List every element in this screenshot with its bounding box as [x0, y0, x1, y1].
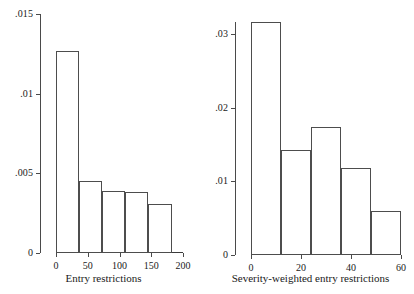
x-axis-tick-label: 200 [163, 261, 203, 271]
histogram-bar [79, 181, 102, 253]
x-axis-tick-label: 0 [231, 263, 271, 273]
histogram-bar [102, 191, 125, 253]
y-axis-tick-label: 0 [0, 248, 33, 258]
x-axis-tick [351, 255, 352, 259]
y-axis-tick-label: 0 [207, 250, 228, 260]
histogram-bar [311, 127, 341, 255]
x-axis-tick [183, 253, 184, 257]
x-axis-title: Entry restrictions [0, 272, 207, 284]
histogram-bar [251, 22, 281, 255]
plot-area [56, 14, 183, 253]
y-axis-spine [40, 14, 41, 253]
x-axis-tick [401, 255, 402, 259]
y-axis-tick-label: .03 [207, 29, 228, 39]
x-axis-tick [56, 253, 57, 257]
plot-area [251, 22, 401, 255]
x-axis-title: Severity-weighted entry restrictions [207, 272, 414, 284]
chart-panel-entry-restrictions: Entry restrictions 0.005.01.015050100150… [0, 0, 207, 294]
x-axis-tick-label: 60 [381, 263, 414, 273]
histogram-bar [148, 204, 171, 253]
x-axis-tick [120, 253, 121, 257]
histogram-bar [56, 51, 79, 253]
x-axis-tick [301, 255, 302, 259]
histogram-bar [371, 211, 401, 255]
histogram-bar [281, 150, 311, 255]
x-axis-tick [251, 255, 252, 259]
y-axis-tick [231, 255, 235, 256]
chart-panel-severity-weighted: Severity-weighted entry restrictions 0.0… [207, 0, 414, 294]
y-axis-tick [36, 173, 40, 174]
histogram-bar [125, 192, 148, 253]
y-axis-tick [36, 14, 40, 15]
y-axis-tick [231, 181, 235, 182]
y-axis-tick [231, 34, 235, 35]
y-axis-tick [36, 94, 40, 95]
y-axis-tick-label: .005 [0, 168, 33, 178]
histogram-bar [341, 168, 371, 255]
histogram-figure: Entry restrictions 0.005.01.015050100150… [0, 0, 414, 294]
y-axis-tick-label: .01 [0, 89, 33, 99]
y-axis-spine [235, 22, 236, 255]
y-axis-tick-label: .02 [207, 103, 228, 113]
y-axis-tick-label: .01 [207, 176, 228, 186]
x-axis-tick [88, 253, 89, 257]
x-axis-tick-label: 40 [331, 263, 371, 273]
x-axis-tick [151, 253, 152, 257]
y-axis-tick [231, 108, 235, 109]
x-axis-tick-label: 20 [281, 263, 321, 273]
y-axis-tick-label: .015 [0, 9, 33, 19]
y-axis-tick [36, 253, 40, 254]
